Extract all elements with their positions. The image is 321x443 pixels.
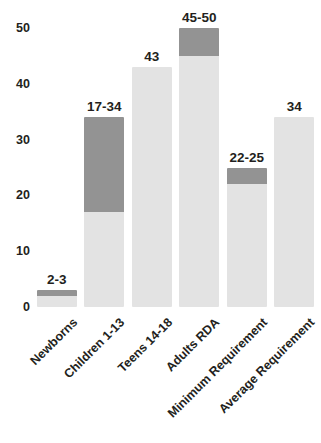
- bar-segment-base: [179, 56, 219, 307]
- bar[interactable]: [37, 290, 77, 307]
- bar-segment-range: [179, 28, 219, 56]
- x-axis-label-average-requirement: Average Requirement: [217, 316, 317, 416]
- bar[interactable]: [132, 67, 172, 307]
- bar-chart: 01020304050 NewbornsChildren 1-13Teens 1…: [0, 0, 321, 443]
- bar-group: 22-25: [227, 0, 267, 307]
- bar-segment-range: [37, 290, 77, 296]
- bar-value-label: 17-34: [87, 100, 122, 114]
- bar-group: 34: [274, 0, 314, 307]
- bar[interactable]: [274, 117, 314, 307]
- bar[interactable]: [84, 117, 124, 307]
- bar-group: 43: [132, 0, 172, 307]
- axis-baseline: [33, 307, 318, 308]
- y-axis-tick-label: 20: [4, 189, 30, 201]
- bar-value-label: 45-50: [182, 11, 217, 25]
- bar-group: 17-34: [84, 0, 124, 307]
- bar-segment-base: [84, 212, 124, 307]
- y-axis-tick-label: 10: [4, 245, 30, 257]
- bar[interactable]: [179, 28, 219, 307]
- bar-segment-base: [227, 184, 267, 307]
- y-axis: 01020304050: [0, 0, 30, 443]
- bar[interactable]: [227, 168, 267, 308]
- bar-segment-range: [84, 117, 124, 212]
- bar-value-label: 22-25: [229, 151, 264, 165]
- bar-segment-base: [274, 117, 314, 307]
- y-axis-tick-label: 0: [4, 301, 30, 313]
- bar-value-label: 34: [287, 100, 302, 114]
- bar-segment-base: [132, 67, 172, 307]
- bar-value-label: 2-3: [47, 273, 67, 287]
- bar-group: 2-3: [37, 0, 77, 307]
- y-axis-tick-label: 50: [4, 22, 30, 34]
- bar-value-label: 43: [144, 50, 159, 64]
- y-axis-tick-label: 40: [4, 78, 30, 90]
- bar-segment-range: [227, 168, 267, 185]
- bar-segment-base: [37, 296, 77, 307]
- y-axis-tick-label: 30: [4, 134, 30, 146]
- bar-group: 45-50: [179, 0, 219, 307]
